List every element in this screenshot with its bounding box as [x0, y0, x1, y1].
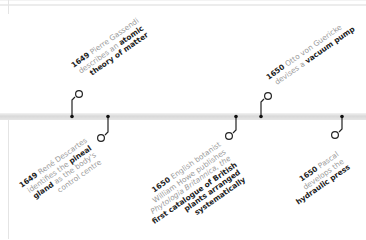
event-connector-guericke	[259, 93, 271, 119]
timeline-dot-icon	[234, 115, 238, 119]
timeline-dot-icon	[259, 115, 263, 119]
marker-circle-icon	[226, 133, 233, 140]
event-connector-descartes	[98, 115, 110, 142]
marker-circle-icon	[76, 91, 83, 98]
marker-circle-icon	[98, 135, 105, 142]
marker-circle-icon	[332, 132, 339, 139]
event-connector-gassendi	[70, 91, 82, 119]
timeline-dot-icon	[70, 115, 74, 119]
marker-circle-icon	[265, 93, 272, 100]
timeline-dot-icon	[106, 115, 110, 119]
timeline-dot-icon	[340, 115, 344, 119]
event-connector-pascal	[332, 115, 344, 139]
event-connector-howe	[226, 115, 238, 140]
